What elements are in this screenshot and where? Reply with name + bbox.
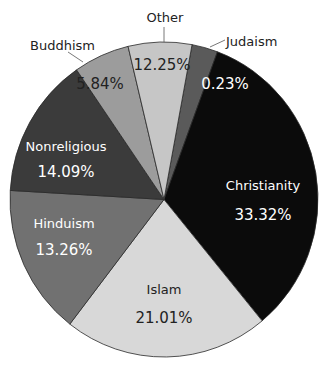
slice-value-christianity: 33.32%	[234, 206, 291, 224]
slice-name-islam: Islam	[147, 282, 182, 297]
slice-name-christianity: Christianity	[226, 178, 301, 193]
slice-value-hinduism: 13.26%	[35, 241, 92, 259]
slice-name-judaism: Judaism	[225, 34, 277, 49]
pie-chart: 0.23%Christianity33.32%Islam21.01%Hindui…	[0, 0, 327, 371]
leader-line-judaism	[210, 40, 225, 47]
slice-name-nonreligious: Nonreligious	[25, 139, 106, 154]
slice-value-islam: 21.01%	[135, 309, 192, 327]
slice-value-buddhism: 5.84%	[76, 75, 124, 93]
slice-value-other: 12.25%	[133, 56, 190, 74]
slice-name-other: Other	[147, 10, 185, 25]
slice-name-hinduism: Hinduism	[33, 216, 94, 231]
slice-value-nonreligious: 14.09%	[37, 163, 94, 181]
slice-name-buddhism: Buddhism	[30, 38, 95, 53]
leader-line-buddhism	[68, 52, 83, 62]
slice-value-judaism: 0.23%	[201, 75, 249, 93]
